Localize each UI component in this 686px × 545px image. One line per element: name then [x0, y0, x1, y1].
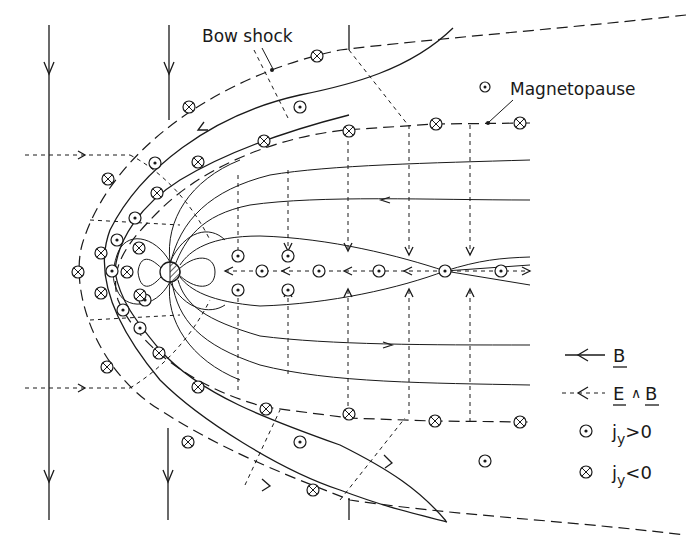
- circle-cross-icon: [260, 403, 272, 415]
- circle-dot-icon: [232, 284, 244, 296]
- circle-cross-icon: [343, 125, 355, 137]
- jy-neg-rel: <0: [625, 462, 652, 483]
- circle-dot-icon: [129, 212, 141, 224]
- circle-cross-icon: [429, 415, 441, 427]
- circle-dot-icon: [282, 284, 294, 296]
- legend-item-jy-neg: jy<0: [580, 462, 652, 488]
- circle-dot-icon: [282, 250, 294, 262]
- circle-cross-icon: [514, 416, 526, 428]
- circle-cross-icon: [258, 135, 270, 147]
- circle-cross-icon: [311, 50, 323, 62]
- legend-b2-text: B: [645, 383, 657, 404]
- circle-cross-icon: [153, 347, 165, 359]
- legend-item-b: B: [565, 345, 627, 367]
- jy-neg-sub: y: [617, 472, 625, 488]
- circle-dot-icon: [480, 82, 490, 92]
- circle-cross-icon: [192, 381, 204, 393]
- jy-pos-rel: >0: [625, 421, 652, 442]
- magnetosheath-field-lines: [104, 28, 453, 522]
- circle-dot-icon: [256, 265, 268, 277]
- circle-cross-icon: [151, 187, 163, 199]
- circle-cross-icon: [102, 173, 114, 185]
- magnetopause-label: Magnetopause: [510, 79, 635, 99]
- circle-dot-icon: [111, 234, 123, 246]
- circle-dot-icon: [479, 455, 491, 467]
- magnetosphere-diagram: Bow shock Magnetopause B E ∧ B jy>0: [0, 0, 686, 545]
- planet: [160, 262, 180, 282]
- circle-cross-icon: [514, 117, 526, 129]
- circle-cross-icon: [95, 247, 107, 259]
- legend-wedge-text: ∧: [631, 385, 641, 401]
- circle-dot-icon: [294, 436, 306, 448]
- circle-cross-icon: [580, 466, 592, 478]
- exb-drift-lines: [25, 50, 530, 500]
- magnetopause-label-group: Magnetopause: [480, 79, 635, 122]
- circle-dot-icon: [373, 265, 385, 277]
- legend-item-jy-pos: jy>0: [580, 421, 652, 447]
- circle-dot-icon: [149, 157, 161, 169]
- circle-dot-icon: [495, 265, 507, 277]
- bow-shock-label-group: Bow shock: [202, 26, 293, 69]
- svg-text:jy>0: jy>0: [611, 421, 652, 447]
- circle-cross-icon: [192, 156, 204, 168]
- circle-cross-icon: [307, 484, 319, 496]
- circle-dot-icon: [439, 265, 451, 277]
- circle-cross-icon: [101, 361, 113, 373]
- circle-dot-icon: [134, 322, 146, 334]
- legend-e-text: E: [613, 383, 624, 404]
- circle-dot-icon: [294, 101, 306, 113]
- circle-cross-icon: [72, 266, 84, 278]
- bow-shock-label: Bow shock: [202, 26, 293, 46]
- legend: B E ∧ B jy>0 jy<0: [562, 345, 659, 488]
- circle-cross-icon: [183, 101, 195, 113]
- jy-pos-sub: y: [617, 431, 625, 447]
- circle-cross-icon: [133, 242, 145, 254]
- circle-dot-icon: [580, 425, 592, 437]
- legend-item-exb: E ∧ B: [562, 383, 659, 405]
- circle-dot-icon: [117, 304, 129, 316]
- circle-dot-icon: [106, 265, 118, 277]
- circle-cross-icon: [182, 436, 194, 448]
- svg-text:jy<0: jy<0: [611, 462, 652, 488]
- circle-dot-icon: [232, 250, 244, 262]
- circle-cross-icon: [134, 289, 146, 301]
- circle-dot-icon: [313, 265, 325, 277]
- legend-b-text: B: [613, 345, 625, 366]
- circle-cross-icon: [343, 408, 355, 420]
- circle-cross-icon: [121, 266, 133, 278]
- circle-cross-icon: [95, 287, 107, 299]
- circle-cross-icon: [430, 118, 442, 130]
